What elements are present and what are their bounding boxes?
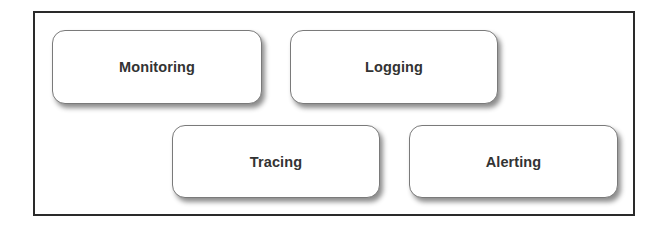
node-alerting: Alerting bbox=[409, 125, 618, 198]
node-label-tracing: Tracing bbox=[250, 154, 302, 170]
node-label-logging: Logging bbox=[365, 59, 423, 75]
node-tracing: Tracing bbox=[172, 125, 380, 198]
node-label-monitoring: Monitoring bbox=[119, 59, 195, 75]
node-monitoring: Monitoring bbox=[52, 30, 262, 104]
node-logging: Logging bbox=[290, 30, 498, 104]
node-label-alerting: Alerting bbox=[486, 154, 542, 170]
